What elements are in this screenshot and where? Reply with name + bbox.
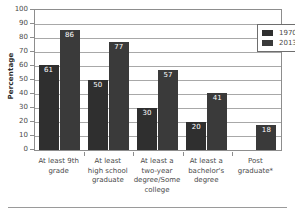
category-label-line: At least	[82, 157, 134, 167]
bar-value-label: 41	[213, 93, 222, 102]
legend-swatch-2013	[262, 40, 273, 46]
bar-2013: 18	[256, 125, 276, 150]
category-label-line: bachelor's	[180, 167, 232, 177]
x-axis-category-label: At least atwo-yeardegree/Somecollege	[131, 157, 183, 195]
category-label-line: At least 9th	[33, 157, 85, 167]
bar-1970: 20	[186, 122, 206, 150]
category-label-line: graduate*	[229, 167, 281, 177]
x-axis-tick	[232, 152, 233, 156]
category-label-line: college	[131, 186, 183, 196]
y-axis-tick-label: 70	[8, 48, 28, 55]
x-axis-tick	[133, 152, 134, 156]
x-axis-category-label: At least abachelor'sdegree	[180, 157, 232, 186]
bar-1970: 50	[88, 80, 108, 150]
y-axis-tick-label: 0	[8, 146, 28, 153]
y-axis-tick-label: 80	[8, 34, 28, 41]
y-axis-tick-label: 30	[8, 104, 28, 111]
x-axis-tick	[183, 152, 184, 156]
bar-value-label: 57	[163, 70, 172, 79]
bar-group: 6186	[35, 10, 84, 150]
legend-label-2013: 2013	[279, 40, 295, 47]
bar-value-label: 18	[262, 125, 271, 134]
legend-item-1970: 1970	[262, 28, 295, 38]
y-axis-tick-label: 50	[8, 76, 28, 83]
category-label-line: Post	[229, 157, 281, 167]
y-axis-tick-label: 10	[8, 132, 28, 139]
y-axis-tick-label: 20	[8, 118, 28, 125]
category-label-line: grade	[33, 167, 85, 177]
x-axis-tick	[84, 152, 85, 156]
category-label-line: degree/Some	[131, 176, 183, 186]
y-axis-tick-label: 90	[8, 20, 28, 27]
x-axis-category-label: At leasthigh schoolgraduate	[82, 157, 134, 186]
bar-1970: 61	[39, 65, 59, 150]
bar-group: 3057	[133, 10, 182, 150]
bar-group: 2041	[183, 10, 232, 150]
category-label-line: At least a	[131, 157, 183, 167]
plot-area: 618650773057204118 1970 2013	[34, 9, 282, 151]
legend-swatch-1970	[262, 30, 273, 36]
legend-label-1970: 1970	[279, 30, 295, 37]
bar-value-label: 61	[44, 65, 53, 74]
bar-2013: 57	[158, 70, 178, 150]
category-label-line: graduate	[82, 176, 134, 186]
bar-value-label: 86	[65, 30, 74, 39]
x-axis-category-label: At least 9thgrade	[33, 157, 85, 176]
chart-figure: Percentage 0102030405060708090100 618650…	[0, 0, 295, 221]
category-label-line: high school	[82, 167, 134, 177]
y-axis-tick-label: 100	[8, 6, 28, 13]
x-axis-category-labels: At least 9thgradeAt leasthigh schoolgrad…	[34, 157, 282, 207]
bar-value-label: 50	[93, 80, 102, 89]
y-axis-tick-label: 40	[8, 90, 28, 97]
legend-item-2013: 2013	[262, 38, 295, 48]
bar-value-label: 30	[142, 108, 151, 117]
bar-value-label: 20	[192, 122, 201, 131]
bar-group: 5077	[84, 10, 133, 150]
bar-2013: 86	[60, 30, 80, 150]
x-axis-category-label: Postgraduate*	[229, 157, 281, 176]
category-label-line: two-year	[131, 167, 183, 177]
category-label-line: At least a	[180, 157, 232, 167]
bar-2013: 77	[109, 42, 129, 150]
bar-1970: 30	[137, 108, 157, 150]
category-label-line: degree	[180, 176, 232, 186]
bottom-divider	[8, 207, 287, 208]
y-axis-tick-label: 60	[8, 62, 28, 69]
chart-legend: 1970 2013	[257, 24, 295, 52]
bar-2013: 41	[207, 93, 227, 150]
bar-value-label: 77	[114, 42, 123, 51]
